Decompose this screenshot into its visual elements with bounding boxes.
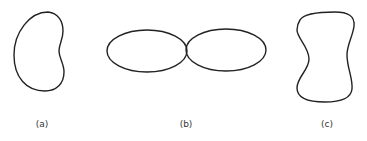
shape-b-left-ellipse	[107, 30, 187, 72]
panel-label-a: (a)	[36, 119, 49, 129]
panel-label-b: (b)	[180, 119, 193, 129]
shape-b-right-ellipse	[186, 29, 266, 71]
shape-c-peanut	[297, 12, 354, 102]
panel-label-c: (c)	[321, 119, 333, 129]
shape-a-kidney	[14, 12, 64, 91]
